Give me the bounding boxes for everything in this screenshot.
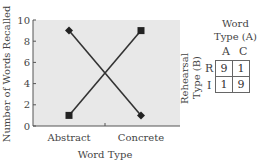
- line-chart: 0246810 Abstract Concrete Word Type Numb…: [0, 0, 263, 166]
- y-tick-label: 4: [24, 78, 30, 89]
- y-tick-label: 10: [17, 15, 30, 26]
- x-category-abstract: Abstract: [46, 132, 90, 143]
- square-marker: [138, 27, 145, 34]
- plot-area: [33, 20, 180, 126]
- y-axis-label: Number of Words Recalled: [1, 5, 12, 142]
- y-tick-label: 2: [24, 99, 30, 110]
- x-category-concrete: Concrete: [118, 132, 164, 143]
- square-marker: [66, 112, 73, 119]
- y-tick-label: 8: [24, 36, 30, 47]
- x-axis-label: Word Type: [78, 149, 133, 160]
- y-tick-label: 0: [24, 121, 30, 132]
- y-tick-label: 6: [24, 57, 30, 68]
